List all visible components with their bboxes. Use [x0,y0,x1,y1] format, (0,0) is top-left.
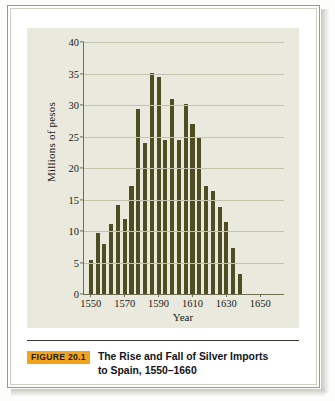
x-tick-mark [124,294,125,297]
plot-area: 0510152025303540155015701590161016301650 [83,42,284,295]
bar [109,224,113,294]
gridline [84,168,284,169]
y-tick-label: 10 [69,226,80,237]
bar [89,260,93,294]
bar [204,186,208,294]
y-tick-mark [80,136,84,137]
x-tick-label: 1650 [250,298,271,309]
bar [143,143,147,294]
y-tick-label: 40 [69,37,80,48]
y-tick-label: 20 [69,163,80,174]
y-tick-label: 0 [74,289,79,300]
bar [163,140,167,294]
bar [102,244,106,294]
plot-wrapper: Millions of pesos 0510152025303540155015… [27,28,299,328]
gridline [84,42,284,43]
bar [211,191,215,294]
x-tick-mark [90,294,91,297]
x-tick-mark [260,294,261,297]
y-tick-mark [80,230,84,231]
x-tick-mark [158,294,159,297]
bar [150,73,154,294]
figure-page: Millions of pesos 0510152025303540155015… [0,0,335,401]
bar [177,140,181,294]
y-tick-mark [80,104,84,105]
bar [231,248,235,294]
x-tick-label: 1550 [80,298,101,309]
page-shadow-bottom [11,389,325,397]
bar [170,99,174,294]
bar [157,77,161,294]
gridline [84,263,284,264]
bar [238,274,242,294]
caption-line-1: The Rise and Fall of Silver Imports [98,351,268,362]
x-tick-label: 1590 [148,298,169,309]
x-tick-label: 1630 [216,298,237,309]
bar [190,124,194,294]
caption-line-2: to Spain, 1550–1660 [98,365,197,376]
y-tick-mark [80,199,84,200]
y-tick-label: 35 [69,68,80,79]
y-tick-label: 15 [69,194,80,205]
chart-panel: Millions of pesos 0510152025303540155015… [27,28,299,328]
figure-number-badge: FIGURE 20.1 [27,351,90,364]
caption-divider [27,340,299,341]
x-tick-label: 1610 [182,298,203,309]
y-axis-label: Millions of pesos [45,82,57,202]
bar [224,222,228,294]
x-axis-label: Year [83,311,283,323]
y-tick-label: 30 [69,100,80,111]
x-tick-mark [226,294,227,297]
bar [218,207,222,294]
x-tick-label: 1570 [114,298,135,309]
y-tick-label: 5 [74,257,79,268]
bar [116,205,120,294]
gridline [84,200,284,201]
gridline [84,74,284,75]
page-shadow-right [321,9,330,393]
bar [197,138,201,294]
gridline [84,105,284,106]
y-tick-mark [80,167,84,168]
bar [129,186,133,294]
y-tick-label: 25 [69,131,80,142]
figure-caption: FIGURE 20.1 The Rise and Fall of Silver … [27,350,305,377]
x-tick-mark [192,294,193,297]
y-tick-mark [80,41,84,42]
gridline [84,137,284,138]
y-tick-mark [80,73,84,74]
y-tick-mark [80,262,84,263]
gridline [84,231,284,232]
caption-text: The Rise and Fall of Silver Imports to S… [98,350,268,377]
y-tick-mark [80,293,84,294]
